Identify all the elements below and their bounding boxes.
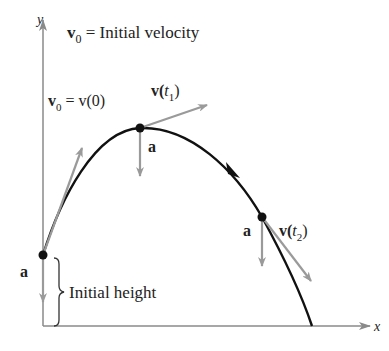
title-label: v0 = Initial velocity <box>67 23 200 46</box>
v0-label: v0 = v(0) <box>48 92 105 113</box>
diagram-svg: y x v0 = Initial velocity v0 = v(0) a In… <box>0 0 389 351</box>
vt2-label: v(t2) <box>279 222 308 243</box>
vt1-vector <box>140 105 207 128</box>
accel-label-peak: a <box>148 138 156 155</box>
accel-label-start: a <box>20 263 28 280</box>
projectile-motion-diagram: y x v0 = Initial velocity v0 = v(0) a In… <box>0 0 389 351</box>
vt1-label: v(t1) <box>151 82 180 103</box>
initial-height-label: Initial height <box>69 283 157 302</box>
point-peak <box>136 124 145 133</box>
y-axis-label: y <box>35 12 44 27</box>
point-t2 <box>258 213 267 222</box>
accel-label-t2: a <box>243 222 251 239</box>
direction-arrow-icon <box>226 162 240 178</box>
v0-vector <box>43 148 82 255</box>
point-start <box>39 251 48 260</box>
x-axis-label: x <box>373 319 381 334</box>
initial-height-brace <box>54 258 64 326</box>
